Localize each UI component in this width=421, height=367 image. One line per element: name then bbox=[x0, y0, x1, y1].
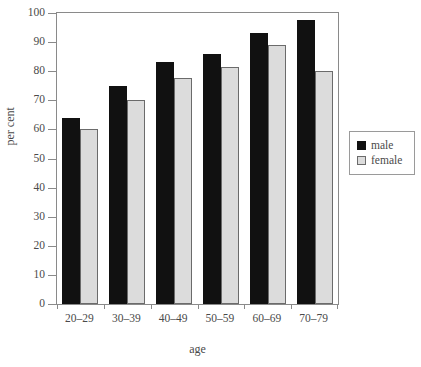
bar-female-60-69 bbox=[268, 45, 286, 304]
x-axis-tick-label: 30–39 bbox=[112, 313, 141, 325]
plot-area: 0102030405060708090100 bbox=[57, 13, 338, 304]
bar-female-50-59 bbox=[221, 67, 239, 304]
plot-frame: 0102030405060708090100 bbox=[56, 12, 339, 305]
legend-item-female: female bbox=[357, 153, 408, 168]
bar-female-40-49 bbox=[174, 78, 192, 304]
y-axis-tick-label: 100 bbox=[28, 7, 45, 19]
legend-label-female: female bbox=[371, 155, 402, 167]
x-axis-tick-label: 40–49 bbox=[159, 313, 188, 325]
bar-male-70-79 bbox=[297, 20, 315, 304]
x-axis-tick-label: 70–79 bbox=[299, 313, 328, 325]
bar-male-50-59 bbox=[203, 54, 221, 304]
bar-female-70-79 bbox=[315, 71, 333, 304]
y-axis-tick-label: 70 bbox=[34, 95, 46, 107]
x-axis-tick bbox=[104, 304, 105, 309]
bar-male-20-29 bbox=[62, 118, 80, 304]
bar-male-60-69 bbox=[250, 33, 268, 304]
male-swatch-icon bbox=[357, 141, 366, 150]
female-swatch-icon bbox=[357, 156, 366, 165]
bar-female-30-39 bbox=[127, 100, 145, 304]
y-axis-tick-label: 90 bbox=[34, 36, 46, 48]
bar-male-40-49 bbox=[156, 62, 174, 304]
x-axis-tick-label: 50–59 bbox=[206, 313, 235, 325]
x-axis-tick-label: 20–29 bbox=[65, 313, 94, 325]
y-axis-tick bbox=[48, 42, 57, 43]
y-axis-tick bbox=[48, 13, 57, 14]
y-axis-tick bbox=[48, 129, 57, 130]
y-axis-tick-label: 50 bbox=[34, 153, 46, 165]
legend-label-male: male bbox=[371, 140, 393, 152]
x-axis-tick-label: 60–69 bbox=[252, 313, 281, 325]
y-axis-tick bbox=[48, 217, 57, 218]
x-axis-title: age bbox=[0, 342, 395, 357]
x-axis-tick bbox=[151, 304, 152, 309]
x-axis-tick bbox=[291, 304, 292, 309]
bar-female-20-29 bbox=[80, 129, 98, 304]
x-axis-tick bbox=[337, 304, 338, 309]
x-axis-tick bbox=[244, 304, 245, 309]
y-axis-tick bbox=[48, 304, 57, 305]
y-axis-tick-label: 30 bbox=[34, 211, 46, 223]
y-axis-tick-label: 0 bbox=[39, 298, 45, 310]
legend-item-male: male bbox=[357, 138, 408, 153]
y-axis-tick-label: 20 bbox=[34, 240, 46, 252]
y-axis-tick bbox=[48, 188, 57, 189]
y-axis-tick-label: 60 bbox=[34, 124, 46, 136]
x-axis-tick bbox=[198, 304, 199, 309]
y-axis-tick bbox=[48, 275, 57, 276]
chart-legend: male female bbox=[349, 131, 415, 175]
y-axis-tick bbox=[48, 159, 57, 160]
chart-figure: per cent 0102030405060708090100 age male… bbox=[0, 0, 421, 367]
y-axis-tick bbox=[48, 246, 57, 247]
y-axis-tick-label: 40 bbox=[34, 182, 46, 194]
y-axis-tick bbox=[48, 71, 57, 72]
y-axis-tick-label: 10 bbox=[34, 269, 46, 281]
bar-male-30-39 bbox=[109, 86, 127, 304]
y-axis-tick-label: 80 bbox=[34, 65, 46, 77]
x-axis-tick bbox=[57, 304, 58, 309]
y-axis-tick bbox=[48, 100, 57, 101]
y-axis-title: per cent bbox=[3, 130, 18, 146]
